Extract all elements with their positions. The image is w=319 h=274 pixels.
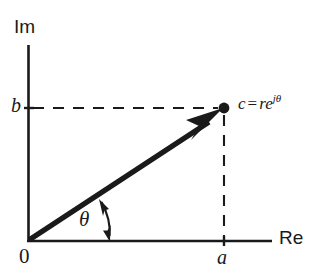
real-axis-label: Re [279, 228, 303, 247]
exponential-base: e [265, 94, 273, 113]
point-marker-c [219, 103, 230, 114]
equals-sign: = [246, 94, 260, 113]
real-value-label-a: a [217, 247, 227, 267]
point-expression-label: c=rejθ [238, 95, 281, 112]
point-name: c [238, 94, 246, 113]
origin-label: 0 [19, 246, 30, 267]
complex-plane-figure: Im Re b a 0 θ c=rejθ [0, 0, 319, 274]
figure-canvas [0, 0, 319, 274]
imaginary-value-label-b: b [11, 95, 21, 115]
angle-arc-arrowhead-lower [103, 225, 111, 242]
phasor-vector-shaft [29, 122, 209, 240]
exponent-j-theta: jθ [273, 92, 281, 104]
angle-symbol-theta: θ [79, 209, 89, 230]
imaginary-axis-label: Im [14, 17, 35, 36]
